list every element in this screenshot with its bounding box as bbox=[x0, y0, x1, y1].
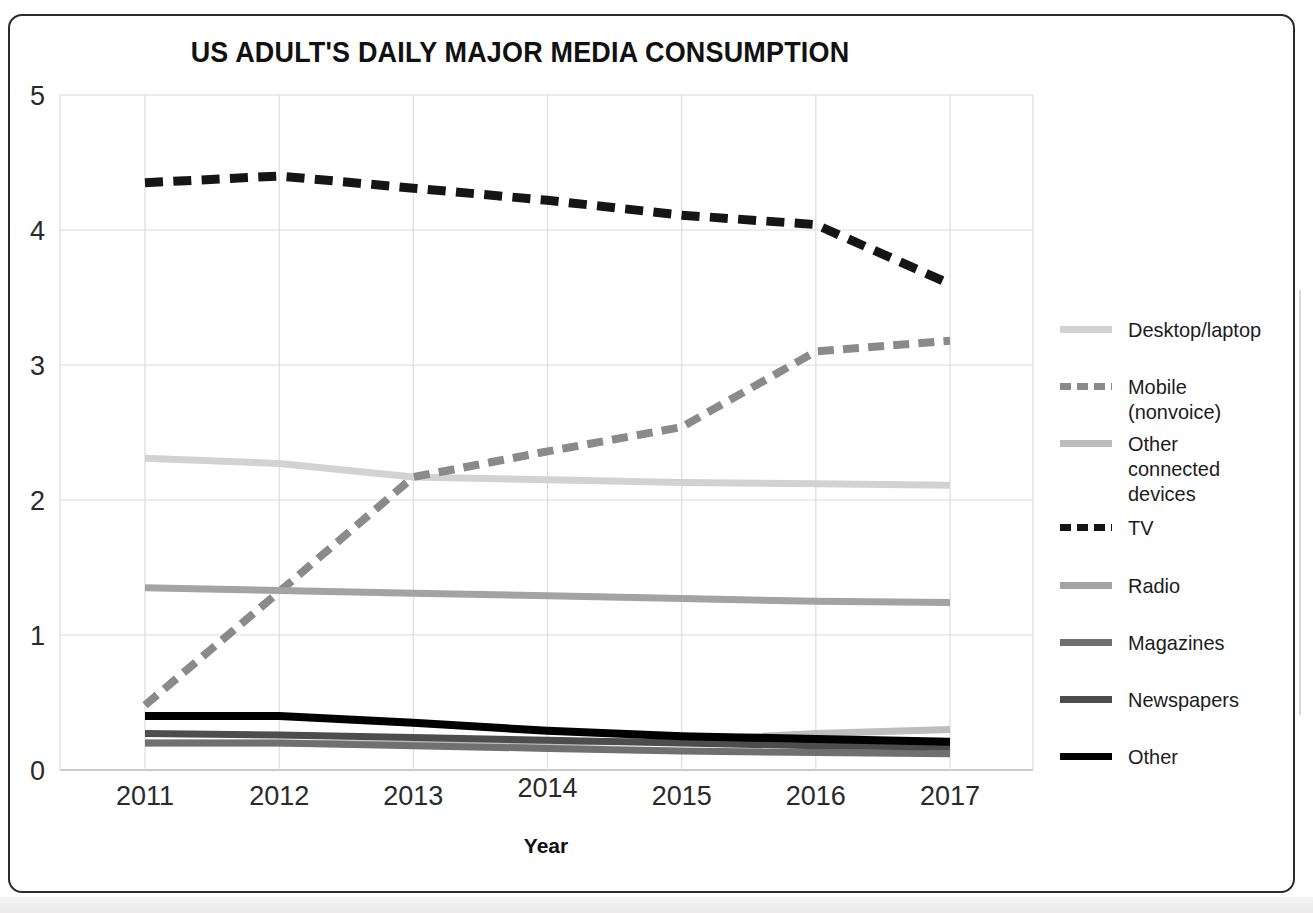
x-tick-label: 2015 bbox=[652, 781, 712, 811]
legend-swatch-dashed bbox=[1060, 383, 1112, 390]
legend-item-label: Mobile (nonvoice) bbox=[1128, 374, 1221, 424]
legend-swatch-solid bbox=[1060, 582, 1112, 589]
x-tick-label: 2011 bbox=[116, 781, 174, 811]
legend-item-label: Other bbox=[1128, 744, 1178, 769]
x-axis-tick-labels: 2011201220132014201520162017 bbox=[116, 773, 980, 811]
x-tick-label: 2017 bbox=[920, 781, 980, 811]
x-tick-label: 2014 bbox=[517, 773, 577, 803]
window-bottom-edge bbox=[0, 897, 1313, 913]
legend-item-label: Desktop/laptop bbox=[1128, 317, 1261, 342]
legend-item-label: Radio bbox=[1128, 573, 1180, 598]
line-chart-plot: 012345 2011201220132014201520162017 Year bbox=[0, 0, 1313, 913]
y-tick-label: 0 bbox=[30, 756, 45, 786]
y-tick-label: 2 bbox=[30, 486, 45, 516]
y-tick-label: 1 bbox=[30, 621, 45, 651]
legend-swatch-solid bbox=[1060, 440, 1112, 447]
legend-item-label: TV bbox=[1128, 515, 1154, 540]
legend-swatch-solid bbox=[1060, 639, 1112, 646]
chart-figure: US ADULT'S DAILY MAJOR MEDIA CONSUMPTION… bbox=[0, 0, 1313, 913]
legend-swatch-solid bbox=[1060, 696, 1112, 703]
y-axis-tick-labels: 012345 bbox=[30, 81, 45, 786]
legend-swatch-solid bbox=[1060, 326, 1112, 333]
legend-item-label: Other connected devices bbox=[1128, 431, 1220, 506]
legend-swatch-solid bbox=[1060, 753, 1112, 760]
y-tick-label: 3 bbox=[30, 351, 45, 381]
x-tick-label: 2012 bbox=[249, 781, 309, 811]
y-tick-label: 5 bbox=[30, 81, 45, 111]
y-tick-label: 4 bbox=[30, 216, 45, 246]
legend-item-label: Newspapers bbox=[1128, 687, 1239, 712]
legend-item-label: Magazines bbox=[1128, 630, 1224, 655]
legend-swatch-dashed bbox=[1060, 524, 1112, 531]
x-tick-label: 2016 bbox=[786, 781, 846, 811]
x-axis-title: Year bbox=[524, 834, 568, 857]
x-tick-label: 2013 bbox=[383, 781, 443, 811]
